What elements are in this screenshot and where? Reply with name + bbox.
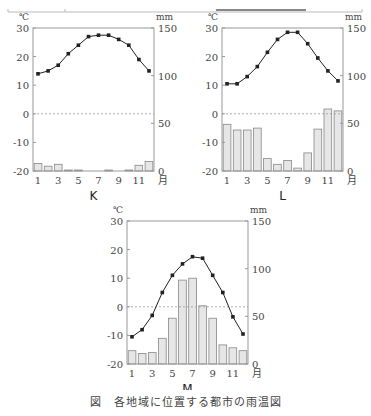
temperature-marker — [306, 42, 310, 46]
month-tick-label: 9 — [116, 175, 122, 186]
temp-unit-label: ℃ — [113, 205, 123, 215]
temperature-marker — [117, 38, 121, 42]
climograph-m: 3020100-10-20℃150100500mm1357911月M — [107, 205, 271, 390]
precip-bar — [189, 278, 197, 364]
temp-unit-label: ℃ — [208, 12, 218, 22]
precip-bar — [159, 338, 167, 364]
precip-tick-label: 100 — [347, 71, 366, 82]
city-label: K — [90, 189, 99, 203]
temperature-marker — [140, 328, 144, 332]
precip-bar — [233, 130, 241, 171]
month-tick-label: 11 — [133, 175, 146, 186]
month-tick-label: 1 — [224, 175, 230, 186]
temperature-marker — [235, 82, 239, 86]
precip-bar — [54, 164, 62, 171]
temp-tick-label: 30 — [110, 216, 123, 227]
month-unit-label: 月 — [158, 175, 168, 186]
temp-tick-label: 0 — [212, 109, 218, 120]
temperature-marker — [77, 43, 81, 47]
precip-tick-label: 150 — [347, 23, 366, 34]
temperature-marker — [46, 69, 50, 73]
temperature-marker — [336, 79, 340, 83]
month-tick-label: 7 — [189, 368, 195, 379]
plot-frame — [127, 221, 248, 364]
temp-tick-label: -20 — [107, 359, 123, 370]
temp-tick-label: -10 — [107, 330, 123, 341]
month-tick-label: 3 — [244, 175, 250, 186]
temperature-marker — [241, 332, 245, 336]
temperature-marker — [231, 315, 235, 319]
precip-bar — [138, 354, 146, 365]
temperature-marker — [137, 58, 141, 62]
precip-bar — [199, 306, 207, 364]
precip-bar — [219, 345, 227, 364]
temperature-marker — [107, 33, 111, 37]
precip-bar — [148, 353, 156, 364]
precip-bar — [254, 128, 262, 171]
precip-bar — [304, 153, 312, 171]
precip-bar — [274, 164, 282, 171]
precip-bar — [223, 124, 231, 171]
temperature-marker — [266, 51, 270, 55]
figure-caption: 図 各地域に位置する都市の雨温図 — [0, 393, 371, 409]
month-unit-label: 月 — [347, 175, 357, 186]
precip-bar — [34, 163, 42, 171]
temperature-marker — [286, 31, 290, 35]
temperature-line — [132, 257, 243, 337]
temperature-marker — [147, 69, 151, 73]
temp-tick-label: 30 — [205, 23, 218, 34]
temperature-marker — [87, 35, 91, 39]
precip-bar — [44, 166, 52, 171]
temp-tick-label: 10 — [110, 273, 123, 284]
temp-tick-label: 20 — [110, 245, 123, 256]
city-label: M — [182, 382, 192, 390]
temp-tick-label: 10 — [16, 80, 29, 91]
precip-bar — [135, 165, 143, 171]
precip-bar — [264, 159, 272, 171]
temperature-marker — [67, 52, 71, 56]
precip-bar — [179, 280, 187, 364]
precip-tick-label: 150 — [252, 216, 271, 227]
temperature-marker — [181, 262, 185, 266]
temperature-marker — [225, 82, 229, 86]
temperature-marker — [130, 335, 134, 339]
temperature-marker — [276, 38, 280, 42]
precip-tick-label: 50 — [158, 118, 171, 129]
month-tick-label: 7 — [284, 175, 290, 186]
month-tick-label: 3 — [55, 175, 61, 186]
temperature-marker — [171, 274, 175, 278]
temperature-marker — [97, 33, 101, 37]
climate-charts: 3020100-10-20℃150100500mm1357911月K302010… — [0, 0, 371, 390]
temperature-marker — [191, 255, 195, 259]
precip-bar — [145, 162, 153, 172]
temp-unit-label: ℃ — [19, 12, 29, 22]
precip-bar — [128, 351, 136, 364]
climograph-l: 3020100-10-20℃150100500mm1357911月L — [202, 12, 366, 203]
month-tick-label: 1 — [35, 175, 41, 186]
precip-unit-label: mm — [345, 12, 363, 22]
precip-tick-label: 150 — [158, 23, 177, 34]
month-tick-label: 11 — [322, 175, 335, 186]
temperature-marker — [150, 314, 154, 318]
temperature-marker — [245, 75, 249, 79]
month-tick-label: 5 — [169, 368, 175, 379]
city-label: L — [279, 189, 286, 203]
precip-unit-label: mm — [156, 12, 174, 22]
precip-bar — [314, 129, 322, 171]
temperature-marker — [256, 65, 260, 69]
temperature-marker — [316, 56, 320, 60]
month-tick-label: 1 — [129, 368, 135, 379]
precip-tick-label: 50 — [347, 118, 360, 129]
temperature-marker — [221, 291, 225, 295]
precip-bar — [243, 130, 251, 171]
temperature-marker — [296, 31, 300, 35]
temperature-marker — [211, 274, 215, 278]
temp-tick-label: 0 — [117, 302, 123, 313]
precip-bar — [209, 318, 217, 364]
precip-tick-label: 50 — [252, 311, 265, 322]
temp-tick-label: 20 — [16, 52, 29, 63]
precip-bar — [284, 161, 292, 172]
temperature-marker — [201, 256, 205, 260]
climograph-k: 3020100-10-20℃150100500mm1357911月K — [13, 12, 177, 203]
precip-bar — [324, 109, 332, 171]
